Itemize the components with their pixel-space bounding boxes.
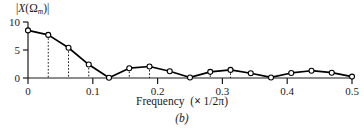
y-axis-label-subscript: m (38, 7, 43, 16)
data-point (208, 69, 213, 74)
data-point (350, 74, 355, 79)
figure-caption: (b) (0, 112, 364, 124)
y-tick-label: 5 (15, 44, 21, 56)
data-point (127, 66, 132, 71)
data-series-line (28, 30, 352, 77)
dropline-group (48, 35, 230, 78)
data-point (107, 75, 112, 80)
data-point (147, 64, 152, 69)
y-axis-label: |X(Ωm)| (16, 2, 49, 14)
figure-panel: |X(Ωm)| 0 5 10 0 0.1 (0, 0, 364, 134)
x-axis-title-main: Frequency (136, 95, 185, 107)
y-tick-labels: 0 5 10 (9, 16, 21, 84)
data-point (26, 28, 31, 33)
data-point (46, 32, 51, 37)
x-axis-title-times: × (194, 95, 201, 107)
data-point (289, 70, 294, 75)
data-point (167, 69, 172, 74)
data-point (228, 67, 233, 72)
y-axis-label-close: )| (43, 2, 49, 14)
x-axis-title: Frequency (× 1/2π) (0, 95, 364, 107)
y-axis-label-omega: (Ω (25, 2, 37, 14)
data-point (86, 62, 91, 67)
data-point (248, 71, 253, 76)
y-tick-label: 10 (9, 16, 21, 28)
chart-plot-area: 0 5 10 0 0.1 0.2 0.3 0.4 0.5 (0, 16, 364, 96)
x-axis-title-paren-close: ) (224, 95, 228, 107)
data-point (269, 75, 274, 80)
data-point (66, 45, 71, 50)
data-point (188, 75, 193, 80)
y-tick-label: 0 (15, 72, 21, 84)
x-axis-title-fraction: 1/2 (204, 95, 219, 107)
data-point (329, 70, 334, 75)
data-point (309, 68, 314, 73)
